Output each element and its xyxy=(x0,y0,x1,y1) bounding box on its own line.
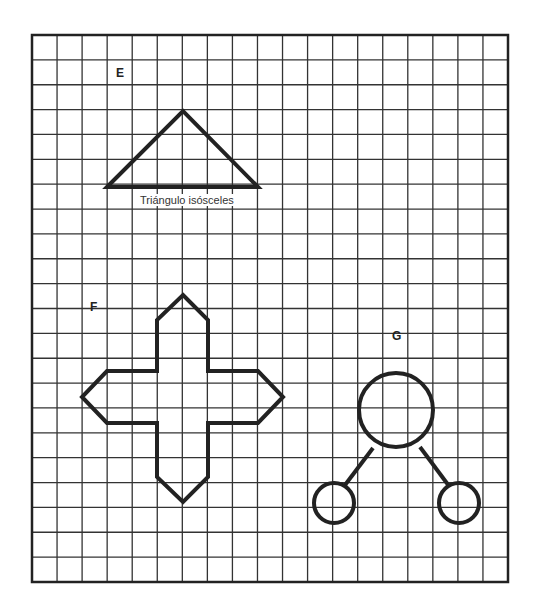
label-E: E xyxy=(116,66,124,80)
label-G: G xyxy=(392,329,401,343)
figure-G xyxy=(314,373,479,523)
connector-left xyxy=(345,448,373,485)
caption-isosceles-triangle: Triángulo isósceles xyxy=(138,194,236,206)
large-circle xyxy=(359,373,433,447)
small-circle-right xyxy=(439,483,479,523)
label-F: F xyxy=(90,300,97,314)
grid-lines xyxy=(32,35,508,582)
small-circle-left xyxy=(314,483,354,523)
connector-right xyxy=(420,447,449,486)
grid-diagram xyxy=(0,0,535,613)
